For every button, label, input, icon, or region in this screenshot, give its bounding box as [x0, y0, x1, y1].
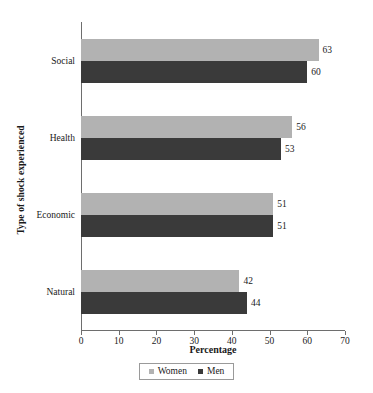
bar-men-health	[81, 138, 281, 160]
bar-men-natural	[81, 292, 247, 314]
bar-value-label: 44	[247, 292, 261, 314]
chart-legend: WomenMen	[0, 363, 373, 380]
bar-group: Economic5151	[81, 193, 345, 237]
x-tick-mark	[81, 331, 82, 335]
x-axis-line	[81, 330, 345, 331]
bar-men-social	[81, 61, 307, 83]
legend-label: Women	[158, 366, 187, 376]
bar-value-label: 53	[281, 138, 295, 160]
legend-box: WomenMen	[139, 363, 235, 380]
category-label: Economic	[0, 209, 75, 221]
bar-group: Natural4244	[81, 270, 345, 314]
x-tick-mark	[194, 331, 195, 335]
category-label: Health	[0, 132, 75, 144]
x-tick-mark	[156, 331, 157, 335]
bar-chart: Type of shock experienced 01020304050607…	[0, 0, 373, 393]
bar-value-label: 51	[273, 215, 287, 237]
category-label: Social	[0, 55, 75, 67]
legend-item-men[interactable]: Men	[198, 366, 224, 376]
bar-value-label: 42	[239, 270, 253, 292]
bar-value-label: 60	[307, 61, 321, 83]
plot-area: 010203040506070 Natural4244Economic5151H…	[81, 22, 345, 330]
bar-group: Health5653	[81, 116, 345, 160]
x-tick-mark	[345, 331, 346, 335]
bar-value-label: 56	[292, 116, 306, 138]
x-tick-mark	[307, 331, 308, 335]
bar-group: Social6360	[81, 39, 345, 83]
legend-item-women[interactable]: Women	[149, 366, 187, 376]
x-tick-mark	[119, 331, 120, 335]
bar-women-economic	[81, 193, 273, 215]
x-tick-mark	[232, 331, 233, 335]
x-tick-mark	[270, 331, 271, 335]
legend-label: Men	[207, 366, 224, 376]
x-axis-title: Percentage	[81, 344, 345, 355]
legend-swatch-icon	[198, 369, 203, 374]
bar-value-label: 51	[273, 193, 287, 215]
bar-men-economic	[81, 215, 273, 237]
category-label: Natural	[0, 286, 75, 298]
bar-women-social	[81, 39, 319, 61]
bar-value-label: 63	[319, 39, 333, 61]
legend-swatch-icon	[149, 369, 154, 374]
bar-women-health	[81, 116, 292, 138]
bar-women-natural	[81, 270, 239, 292]
y-axis-title: Type of shock experienced	[16, 95, 26, 265]
